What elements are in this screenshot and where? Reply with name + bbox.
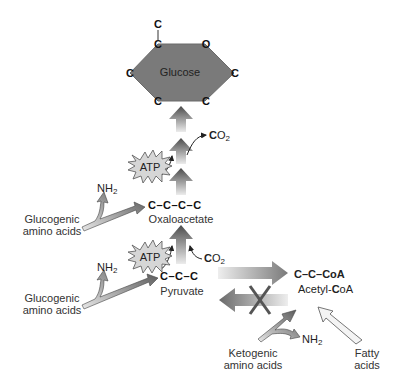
co2-upper-label: CO2 xyxy=(209,129,230,143)
co2-fixation-curve xyxy=(190,246,202,259)
up-arrow-co2-release xyxy=(169,138,193,164)
glucogenic-upper-line2: amino acids xyxy=(23,225,82,237)
glucogenic-lower-line1: Glucogenic xyxy=(24,292,79,304)
co2-lower-label: CO2 xyxy=(204,252,225,266)
glucogenic-lower-line2: amino acids xyxy=(23,304,82,316)
glucose-atom-right: C xyxy=(231,68,239,79)
gluconeogenesis-diagram: C C O C C C C Glucose CO2 ATP ATP NH2 C–… xyxy=(0,0,397,386)
fatty-acids-line1: Fatty xyxy=(355,347,379,359)
pyruvate-label: Pyruvate xyxy=(160,285,203,297)
glucogenic-lower-arrow xyxy=(82,270,158,309)
oxaloacetate-chain: C–C–C–C xyxy=(148,199,202,211)
fatty-acids-arrow xyxy=(318,307,362,344)
acetylcoa-chain: C–C–CoA xyxy=(294,268,345,280)
glucose-atom-bottom-left: C xyxy=(154,96,162,107)
diagram-graphics xyxy=(0,0,397,386)
glucogenic-upper-arrow xyxy=(82,192,145,231)
glucose-atom-bottom-right: C xyxy=(202,96,210,107)
fatty-acids-line2: acids xyxy=(354,359,380,371)
ketogenic-line1: Ketogenic xyxy=(229,347,278,359)
glucose-atom-top: C xyxy=(154,19,162,30)
nh2-lower-label: NH2 xyxy=(97,261,117,275)
glucose-atom-left: C xyxy=(126,68,134,79)
up-arrow-to-glucose xyxy=(169,106,193,132)
up-arrow-from-oxaloacetate xyxy=(169,168,193,195)
co2-release-curve xyxy=(187,135,206,155)
nh2-upper-label: NH2 xyxy=(97,182,117,196)
oxaloacetate-label: Oxaloacetate xyxy=(149,213,214,225)
up-arrow-from-pyruvate xyxy=(169,225,193,264)
ketogenic-line2: amino acids xyxy=(224,359,283,371)
glucose-label: Glucose xyxy=(160,66,200,78)
nh2-ketogenic-label: NH2 xyxy=(302,333,322,347)
atp-upper-label: ATP xyxy=(140,161,161,173)
acetylcoa-label: Acetyl-CoA xyxy=(298,283,353,295)
glucose-atom-top-right: O xyxy=(202,39,211,50)
atp-lower-label: ATP xyxy=(140,251,161,263)
pyruvate-to-acetylcoa-arrow xyxy=(218,261,288,285)
pyruvate-chain: C–C–C xyxy=(160,270,199,282)
glucose-atom-top-left: C xyxy=(154,39,162,50)
glucogenic-upper-line1: Glucogenic xyxy=(24,213,79,225)
ketogenic-arrow xyxy=(258,310,300,342)
